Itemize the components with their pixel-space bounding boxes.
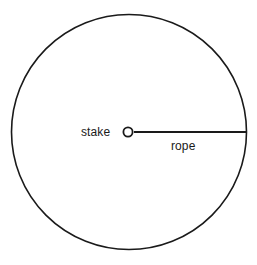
rope-label: rope [171, 140, 195, 152]
diagram-canvas: stake rope [0, 0, 257, 265]
stake-marker-icon [123, 127, 132, 136]
circle-diagram-svg [0, 0, 257, 265]
stake-label: stake [81, 126, 110, 138]
